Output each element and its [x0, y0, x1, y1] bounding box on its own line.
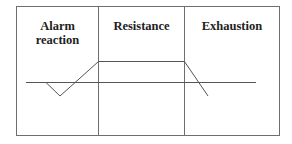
stage-label-exhaustion: Exhaustion	[184, 19, 280, 33]
stage-label-alarm-line1: Alarm	[16, 19, 99, 33]
stage-label-resistance: Resistance	[98, 19, 185, 33]
stage-label-alarm-line2: reaction	[16, 33, 99, 47]
stage-label-exhaustion-line1: Exhaustion	[184, 19, 280, 33]
stage-label-resistance-line1: Resistance	[98, 19, 185, 33]
gas-stage-diagram: Alarm reaction Resistance Exhaustion	[0, 0, 292, 144]
stress-response-curve	[46, 62, 208, 97]
stage-label-alarm: Alarm reaction	[16, 19, 99, 47]
